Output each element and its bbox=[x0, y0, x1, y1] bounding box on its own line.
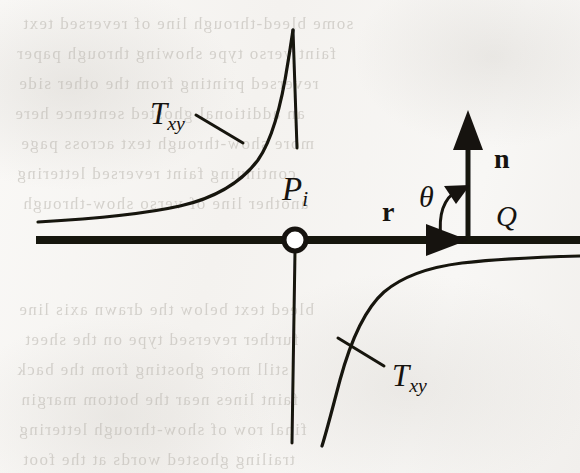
vertical-asymptote-lower bbox=[292, 251, 295, 443]
arrowheads bbox=[426, 110, 483, 256]
label-radius-vector-r: r bbox=[382, 196, 394, 228]
vertical-asymptote-upper bbox=[293, 30, 297, 148]
label-t-xy-upper: Txy bbox=[150, 96, 185, 135]
leader-line-upper bbox=[196, 115, 243, 143]
label-angle-theta: θ bbox=[419, 180, 434, 214]
label-normal-vector-n: n bbox=[494, 143, 510, 175]
label-t-xy-upper-subscript: xy bbox=[167, 112, 185, 134]
label-t-xy-lower-subscript: xy bbox=[409, 374, 427, 396]
label-p-i-subscript: i bbox=[302, 187, 308, 211]
label-t-xy-lower: Txy bbox=[392, 358, 427, 397]
label-p-i: Pi bbox=[282, 171, 308, 212]
normal-vector-arrowhead bbox=[453, 110, 483, 150]
label-t-xy-upper-base: T bbox=[150, 96, 167, 131]
axis-arrowhead bbox=[426, 224, 468, 256]
label-source-point-q: Q bbox=[496, 200, 517, 233]
diagram-vector-layer bbox=[0, 0, 580, 473]
figure-canvas: some bleed-through line of reversed text… bbox=[0, 0, 580, 473]
label-t-xy-lower-base: T bbox=[392, 358, 409, 393]
origin-point-marker bbox=[284, 229, 306, 251]
label-p-i-base: P bbox=[282, 171, 302, 207]
